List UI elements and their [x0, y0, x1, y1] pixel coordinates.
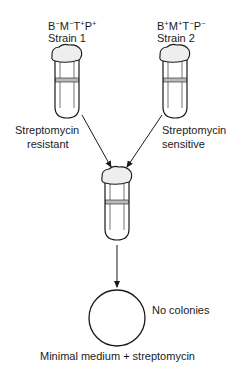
strain1-genotype: B−M−T+P+	[48, 18, 97, 32]
strain1-label: Strain 1	[48, 32, 86, 44]
petri-plate	[89, 290, 145, 346]
arrow-strain2-to-mix	[127, 115, 162, 167]
strain1-phenotype-line2: resistant	[27, 138, 69, 150]
strain2-phenotype-line2: sensitive	[162, 138, 205, 150]
plate-medium: Minimal medium + streptomycin	[40, 350, 195, 362]
strain1-phenotype-line1: Streptomycin	[15, 124, 79, 136]
mixed-tube	[102, 166, 132, 240]
arrow-strain1-to-mix	[82, 115, 111, 167]
strain2-genotype: B+M+T−P−	[157, 18, 206, 32]
strain2-phenotype-line1: Streptomycin	[162, 124, 226, 136]
strain1-tube	[52, 44, 82, 118]
strain2-tube	[160, 44, 190, 118]
plate-result: No colonies	[152, 304, 209, 316]
strain2-label: Strain 2	[157, 32, 195, 44]
